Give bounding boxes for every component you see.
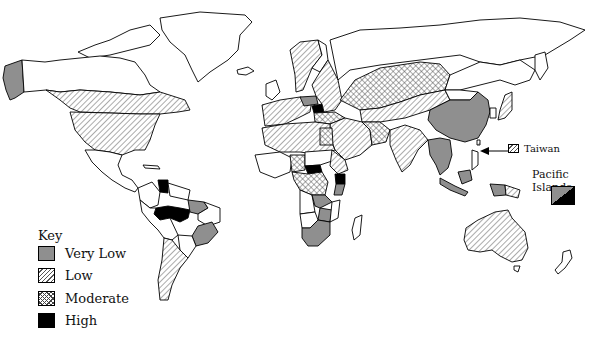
egypt — [320, 128, 333, 145]
very-low-swatch — [38, 246, 55, 261]
southern-canada — [46, 90, 190, 114]
legend-label: High — [65, 313, 97, 328]
taiwan-label: Taiwan — [524, 143, 560, 154]
papua-east — [505, 185, 520, 198]
iceland — [237, 67, 254, 75]
legend-item-moderate: Moderate — [38, 291, 129, 306]
taiwan-callout: Taiwan — [508, 143, 560, 154]
congo — [292, 172, 328, 195]
kamchatka — [535, 52, 548, 80]
united-states — [70, 112, 160, 155]
india — [390, 125, 428, 172]
arctic-islands — [78, 25, 160, 58]
high-swatch — [38, 313, 55, 328]
pacific-islands-swatch — [551, 186, 575, 205]
russia-north — [330, 18, 585, 80]
legend-item-very-low: Very Low — [38, 246, 126, 261]
korea — [490, 108, 496, 118]
legend-label: Moderate — [65, 291, 129, 306]
kenya — [335, 174, 345, 184]
niger-nigeria — [290, 155, 305, 172]
venezuela — [158, 180, 168, 193]
low-swatch — [38, 268, 55, 283]
borneo — [458, 170, 472, 184]
mexico — [85, 150, 138, 192]
legend-item-low: Low — [38, 268, 93, 283]
southeast-asia — [428, 138, 452, 175]
madagascar — [352, 215, 362, 240]
alaska — [3, 60, 24, 100]
taiwan-arrow-icon — [480, 145, 510, 157]
west-africa — [255, 152, 292, 178]
papua-west — [490, 184, 506, 196]
legend-item-high: High — [38, 313, 97, 328]
legend-label: Low — [65, 268, 93, 283]
japan — [498, 92, 512, 120]
tasmania — [514, 266, 520, 272]
new-zealand — [555, 250, 572, 274]
world-map — [0, 0, 591, 339]
australia — [464, 210, 528, 262]
northwest-canada — [22, 56, 160, 95]
mozambique — [330, 200, 340, 222]
zambia — [312, 195, 332, 208]
peru-bolivia — [140, 200, 178, 240]
taiwan-swatch — [508, 144, 519, 153]
uk — [266, 80, 280, 100]
caribbean — [143, 165, 160, 169]
southeast-brazil — [192, 222, 218, 246]
philippines — [472, 150, 478, 170]
legend-label: Very Low — [65, 246, 126, 261]
tanzania — [334, 184, 345, 195]
legend-title: Key — [38, 228, 62, 243]
far-east-russia — [445, 60, 535, 90]
moderate-swatch — [38, 291, 55, 306]
guianas — [168, 183, 190, 200]
